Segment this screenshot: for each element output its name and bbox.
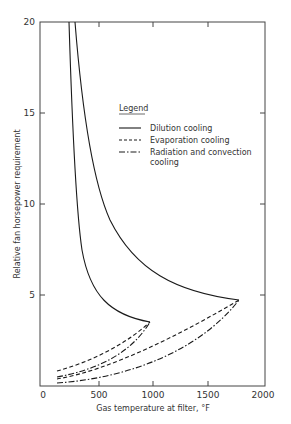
series-group [57,22,239,383]
y-tick-label: 20 [24,17,36,27]
x-tick-label: 1000 [142,390,165,400]
y-tick-label: 5 [29,290,35,300]
x-axis [99,22,208,386]
y-axis-title: Relative fan horsepower requirement [13,129,22,278]
x-tick-label: 500 [90,390,107,400]
x-tick-label: 2000 [252,390,275,400]
legend-item-radiation: Radiation and convection [150,148,252,157]
y-tick-label: 15 [24,108,35,118]
dilution-curve-low [69,22,150,322]
legend-item-evaporation: Evaporation cooling [150,136,230,145]
legend-item-radiation-line2: cooling [150,158,179,167]
radiation-curve-low [57,322,150,377]
x-tick-label: 1500 [197,390,220,400]
legend-item-dilution: Dilution cooling [150,124,212,133]
y-tick-label: 10 [24,199,36,209]
x-tick-label: 0 [40,390,46,400]
legend: Legend Dilution cooling Evaporation cool… [119,104,252,167]
legend-title: Legend [119,104,148,113]
evaporation-curve-low [57,322,150,371]
evaporation-curve-high [57,300,239,379]
chart: 5 10 15 20 0 500 1000 1500 2000 Gas temp… [0,0,291,424]
plot-frame [40,22,265,386]
x-axis-title: Gas temperature at filter, °F [96,404,210,413]
